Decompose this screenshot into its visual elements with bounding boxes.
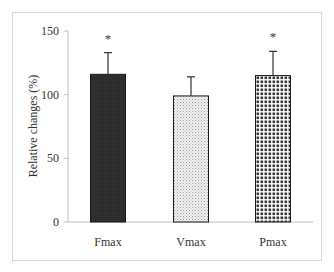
x-category-label: Fmax [94,235,121,249]
x-category-label: Pmax [259,235,286,249]
significance-marker: * [270,29,277,44]
bar-vmax [174,96,209,222]
y-tick-label: 100 [41,88,59,102]
y-tick-label: 150 [41,24,59,38]
y-tick-label: 50 [47,151,59,165]
significance-marker: * [105,31,112,46]
bar-pmax [256,76,291,222]
bars [91,51,291,222]
bar-chart: 050100150Relative changes (%)*FmaxVmax*P… [0,0,334,272]
labels: 050100150Relative changes (%)*FmaxVmax*P… [26,24,287,249]
bar-fmax [91,74,126,222]
x-category-label: Vmax [176,235,205,249]
y-axis-label: Relative changes (%) [26,75,40,178]
y-tick-label: 0 [53,215,59,229]
